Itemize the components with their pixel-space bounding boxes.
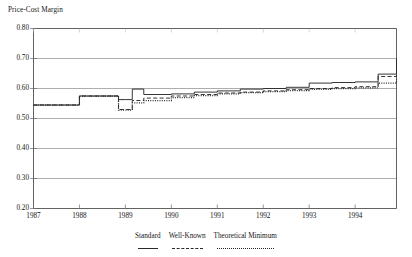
legend-key-row [0, 244, 412, 252]
legend-label-well-known: Well-Known [165, 232, 210, 240]
series-line-standard [34, 59, 397, 106]
series-line-well-known [34, 66, 397, 110]
legend-key-solid [138, 248, 158, 249]
legend-key-holder [165, 244, 210, 252]
legend-key-holder [210, 244, 281, 252]
legend-label-theoretical-minimum: Theoretical Minimum [210, 232, 281, 240]
legend-label-row: StandardWell-KnownTheoretical Minimum [0, 232, 412, 240]
legend-key-holder [131, 244, 165, 252]
gridlines [34, 59, 397, 179]
chart-figure: Price-Cost Margin 0.200.300.400.500.600.… [0, 0, 412, 257]
data-series [34, 59, 397, 111]
legend-key-dashed [172, 248, 203, 249]
legend-key-dotted [217, 248, 274, 249]
chart-legend: StandardWell-KnownTheoretical Minimum [0, 232, 412, 252]
plot-canvas [0, 0, 412, 257]
legend-label-standard: Standard [131, 232, 165, 240]
